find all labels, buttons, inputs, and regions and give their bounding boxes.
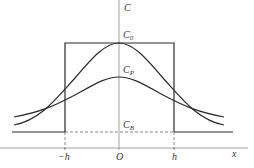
y-axis-label: C bbox=[124, 2, 131, 13]
c0-label: C0 bbox=[123, 29, 134, 42]
concentration-profile-diagram: C C0 CP CB −h O h x bbox=[0, 0, 254, 168]
initial-pulse-rectangle bbox=[65, 43, 174, 132]
cp-label: CP bbox=[123, 64, 135, 77]
x-axis-label: x bbox=[231, 148, 237, 159]
origin-label: O bbox=[116, 151, 123, 162]
pos-h-tick-label: h bbox=[172, 151, 177, 162]
neg-h-tick-label: −h bbox=[58, 151, 70, 162]
cb-label: CB bbox=[123, 119, 135, 132]
